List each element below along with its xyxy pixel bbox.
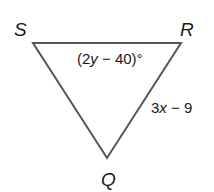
angle-prefix: (2	[77, 50, 90, 67]
side-suffix: − 9	[167, 99, 192, 116]
vertex-label-Q: Q	[101, 169, 116, 190]
side-coef: 3	[151, 99, 159, 116]
vertex-label-S: S	[14, 19, 27, 40]
side-RQ-label: 3x − 9	[151, 99, 192, 116]
vertex-label-R: R	[180, 19, 194, 40]
angle-suffix: − 40)°	[98, 50, 143, 67]
angle-R-label: (2y − 40)°	[77, 50, 143, 67]
triangle-diagram: S R Q (2y − 40)° 3x − 9	[0, 0, 214, 192]
